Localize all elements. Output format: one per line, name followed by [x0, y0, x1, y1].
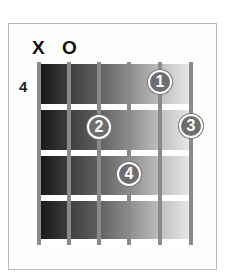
finger-dot-4: 4 — [117, 162, 141, 186]
string-6 — [37, 62, 41, 245]
finger-number: 1 — [156, 73, 165, 91]
open-string-marker: O — [62, 38, 77, 57]
muted-string-marker: X — [32, 38, 45, 57]
finger-number: 4 — [125, 165, 134, 183]
fret-line-3 — [38, 195, 193, 201]
finger-dot-3: 3 — [179, 114, 203, 138]
finger-number: 3 — [187, 117, 196, 135]
finger-number: 2 — [95, 118, 104, 136]
string-4 — [97, 62, 101, 245]
fret-line-2 — [38, 150, 193, 156]
finger-dot-2: 2 — [87, 115, 111, 139]
string-3 — [127, 62, 131, 245]
string-1 — [189, 62, 193, 245]
fret-line-1 — [38, 104, 193, 110]
finger-dot-1: 1 — [148, 70, 172, 94]
string-5 — [67, 62, 71, 245]
start-fret-label: 4 — [19, 78, 27, 95]
fret-line-4 — [38, 239, 193, 245]
